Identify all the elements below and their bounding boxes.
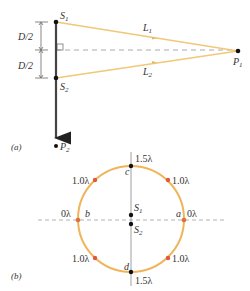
panel-b-label: (b) — [11, 271, 22, 281]
red-point-upper-left — [93, 178, 97, 182]
label-lower-right-value: 1.0λ — [172, 253, 190, 264]
label-a-value: 0λ — [187, 208, 197, 219]
b-source-s2-point — [129, 222, 133, 226]
label-d-half-upper: D/2 — [17, 31, 33, 42]
source-s2-point — [54, 76, 59, 81]
label-l2: L2 — [142, 66, 153, 79]
label-l1: L1 — [142, 22, 152, 35]
label-p2: P2 — [59, 141, 70, 154]
label-d-half-lower: D/2 — [17, 60, 33, 71]
point-p2 — [54, 144, 58, 148]
diagram-canvas: S1 S2 D/2 D/2 L1 L2 P1 P2 (a) 1.5λ c 1.5… — [0, 0, 250, 291]
red-point-upper-right — [166, 178, 170, 182]
source-s1-point — [54, 20, 59, 25]
point-c — [129, 164, 133, 168]
red-point-lower-right — [166, 256, 170, 260]
label-b-letter: b — [85, 208, 90, 219]
label-b-s2: S2 — [134, 224, 143, 237]
label-c-value: 1.5λ — [135, 153, 153, 164]
b-source-s1-point — [129, 213, 133, 217]
panel-a — [35, 20, 240, 148]
point-b — [76, 218, 81, 223]
label-s2: S2 — [60, 81, 69, 94]
right-angle-marker — [57, 44, 63, 50]
label-lower-left-value: 1.0λ — [72, 253, 90, 264]
label-d-letter: d — [124, 261, 130, 272]
label-upper-right-value: 1.0λ — [172, 175, 190, 186]
label-a-letter: a — [176, 208, 181, 219]
point-a — [182, 218, 187, 223]
red-point-lower-left — [93, 256, 97, 260]
label-s1: S1 — [60, 10, 69, 23]
label-c-letter: c — [125, 166, 130, 177]
label-d-value: 1.5λ — [135, 275, 153, 286]
label-b-s1: S1 — [134, 202, 143, 215]
panel-b — [38, 152, 225, 286]
point-d — [129, 270, 133, 274]
dimension-markers — [35, 22, 48, 78]
label-upper-left-value: 1.0λ — [72, 175, 90, 186]
point-p1 — [236, 49, 241, 54]
label-p1: P1 — [232, 56, 243, 69]
panel-a-label: (a) — [11, 142, 22, 152]
label-b-value: 0λ — [61, 208, 71, 219]
